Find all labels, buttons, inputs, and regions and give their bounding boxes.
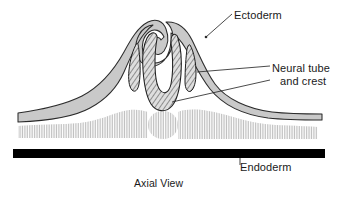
figure-caption: Axial View <box>134 177 183 189</box>
label-neural-tube: Neural tube <box>272 62 330 74</box>
leader-line-ectoderm <box>205 14 232 38</box>
leader-line-neural-crest <box>197 66 270 72</box>
notochord <box>147 110 179 140</box>
figure-root: Ectoderm Neural tube and crest Endoderm … <box>0 0 339 198</box>
label-endoderm: Endoderm <box>240 161 292 173</box>
label-ectoderm: Ectoderm <box>234 9 282 21</box>
label-neural-crest: and crest <box>280 75 326 87</box>
endoderm-bar <box>13 149 325 158</box>
